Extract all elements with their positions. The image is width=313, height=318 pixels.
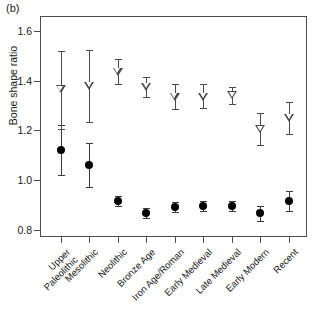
- y-tick-mark: [34, 130, 40, 131]
- error-bar-cap-lower: [200, 211, 207, 212]
- error-bar-cap-lower: [86, 187, 93, 188]
- error-bar-cap-upper: [115, 59, 122, 60]
- error-bar-cap-lower: [115, 206, 122, 207]
- error-bar-cap-upper: [86, 50, 93, 51]
- x-tick-mark: [232, 237, 233, 243]
- x-tick-mark: [89, 237, 90, 243]
- marker-open-triangle: [227, 91, 237, 99]
- marker-triangle-fill: [171, 93, 177, 98]
- y-tick-label: 1.0: [0, 175, 32, 185]
- x-tick-mark: [61, 237, 62, 243]
- marker-open-triangle: [113, 68, 123, 76]
- y-tick-label: 1.2: [0, 125, 32, 135]
- marker-open-triangle: [255, 125, 265, 133]
- marker-triangle-fill: [229, 92, 235, 97]
- marker-triangle-fill: [57, 86, 63, 91]
- x-tick-mark: [118, 237, 119, 243]
- marker-filled-circle: [171, 203, 179, 211]
- figure-panel: (b) Bone shape ratio 0.81.01.21.41.6Uppe…: [0, 0, 313, 318]
- error-bar-cap-upper: [86, 143, 93, 144]
- marker-filled-circle: [57, 146, 65, 154]
- error-bar-cap-lower: [143, 97, 150, 98]
- error-bar-cap-lower: [286, 134, 293, 135]
- error-bar-cap-upper: [286, 102, 293, 103]
- marker-filled-circle: [228, 202, 236, 210]
- marker-triangle-fill: [286, 114, 292, 119]
- error-bar-cap-lower: [229, 211, 236, 212]
- error-bar-cap-upper: [58, 51, 65, 52]
- error-bar-cap-lower: [257, 221, 264, 222]
- marker-filled-circle: [114, 197, 122, 205]
- y-tick-label: 1.6: [0, 26, 32, 36]
- x-tick-mark: [289, 237, 290, 243]
- x-tick-mark: [260, 237, 261, 243]
- error-bar-cap-lower: [58, 175, 65, 176]
- y-tick-mark: [34, 81, 40, 82]
- error-bar-cap-upper: [143, 77, 150, 78]
- y-tick-label: 1.4: [0, 76, 32, 86]
- y-tick-label: 0.8: [0, 225, 32, 235]
- x-tick-mark: [146, 237, 147, 243]
- error-bar-cap-upper: [257, 113, 264, 114]
- marker-triangle-fill: [257, 126, 263, 131]
- error-bar-cap-upper: [200, 84, 207, 85]
- error-bar-cap-lower: [115, 84, 122, 85]
- marker-open-triangle: [284, 114, 294, 122]
- error-bar-cap-upper: [229, 87, 236, 88]
- error-bar-cap-upper: [286, 191, 293, 192]
- marker-triangle-fill: [114, 68, 120, 73]
- error-bar-cap-lower: [58, 129, 65, 130]
- marker-open-triangle: [141, 83, 151, 91]
- x-tick-mark: [175, 237, 176, 243]
- error-bar-cap-lower: [143, 218, 150, 219]
- marker-triangle-fill: [143, 83, 149, 88]
- marker-filled-circle: [285, 197, 293, 205]
- error-bar-cap-lower: [172, 212, 179, 213]
- error-bar-cap-upper: [257, 206, 264, 207]
- error-bar-cap-lower: [229, 104, 236, 105]
- y-tick-mark: [34, 180, 40, 181]
- y-tick-mark: [34, 31, 40, 32]
- error-bar-cap-lower: [286, 211, 293, 212]
- error-bar-cap-lower: [86, 122, 93, 123]
- error-bar-cap-upper: [172, 84, 179, 85]
- marker-open-triangle: [84, 82, 94, 90]
- error-bar-cap-lower: [172, 109, 179, 110]
- marker-triangle-fill: [200, 93, 206, 98]
- error-bar-cap-lower: [200, 108, 207, 109]
- marker-open-triangle: [170, 93, 180, 101]
- marker-open-triangle: [56, 85, 66, 93]
- x-tick-mark: [203, 237, 204, 243]
- marker-open-triangle: [198, 93, 208, 101]
- error-bar-cap-lower: [257, 145, 264, 146]
- marker-triangle-fill: [86, 82, 92, 87]
- y-tick-mark: [34, 230, 40, 231]
